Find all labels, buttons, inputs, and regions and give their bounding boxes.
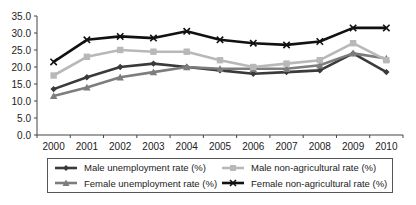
x-tick-label: 2007 <box>275 141 298 152</box>
triangle-marker-icon <box>54 178 78 188</box>
legend-label: Female unemployment rate (%) <box>84 178 217 189</box>
legend-item-male-unemployment: Male unemployment rate (%) <box>54 160 217 176</box>
y-tick-label: 20.0 <box>12 62 32 73</box>
x-tick-label: 2005 <box>209 141 232 152</box>
legend-label: Male unemployment rate (%) <box>84 162 206 173</box>
x-marker-icon <box>221 178 245 188</box>
y-tick-label: 35.0 <box>12 11 32 22</box>
y-tick-label: 30.0 <box>12 28 32 39</box>
x-axis: 2000200120022003200420052006200720082009… <box>37 135 403 152</box>
x-tick-label: 2001 <box>76 141 99 152</box>
line-chart: 0.05.010.015.020.025.030.035.0 200020012… <box>0 0 416 205</box>
x-tick-label: 2006 <box>242 141 265 152</box>
y-tick-label: 10.0 <box>12 96 32 107</box>
y-axis: 0.05.010.015.020.025.030.035.0 <box>12 11 37 141</box>
x-tick-label: 2010 <box>375 141 398 152</box>
legend: Male unemployment rate (%) Male non-agri… <box>47 158 393 193</box>
x-tick-label: 2002 <box>109 141 132 152</box>
x-tick-label: 2009 <box>342 141 365 152</box>
y-tick-label: 0.0 <box>17 130 31 141</box>
legend-item-male-non-agricultural: Male non-agricultural rate (%) <box>221 160 387 176</box>
square-marker-icon <box>221 163 245 173</box>
legend-item-female-unemployment: Female unemployment rate (%) <box>54 176 217 192</box>
y-tick-label: 15.0 <box>12 79 32 90</box>
series-layer <box>50 25 390 99</box>
y-tick-label: 25.0 <box>12 45 32 56</box>
y-tick-label: 5.0 <box>17 113 31 124</box>
x-tick-label: 2003 <box>142 141 165 152</box>
legend-label: Male non-agricultural rate (%) <box>251 162 376 173</box>
x-tick-label: 2000 <box>43 141 66 152</box>
x-tick-label: 2008 <box>309 141 332 152</box>
x-tick-label: 2004 <box>176 141 199 152</box>
legend-item-female-non-agricultural: Female non-agricultural rate (%) <box>221 176 387 192</box>
legend-label: Female non-agricultural rate (%) <box>251 178 387 189</box>
plot-area: 0.05.010.015.020.025.030.035.0 200020012… <box>0 0 416 160</box>
diamond-marker-icon <box>54 163 78 173</box>
